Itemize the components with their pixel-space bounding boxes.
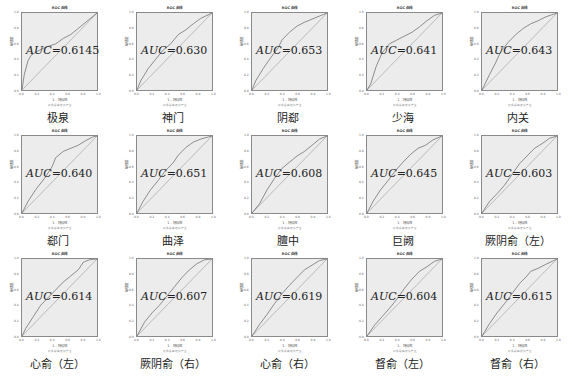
y-tick-label: 0.2 xyxy=(474,319,479,323)
auc-value: 0.630 xyxy=(176,44,208,57)
chart-note: 对角段由结值产生 xyxy=(251,349,328,353)
y-tick-label: 1.0 xyxy=(129,133,134,137)
chart-title: ROC 曲线 xyxy=(251,5,328,10)
y-tick-label: 0.8 xyxy=(244,149,249,153)
y-axis-ticks: 0.00.20.40.60.81.0 xyxy=(244,256,251,338)
x-tick-label: 0.4 xyxy=(280,92,285,96)
y-tick-label: 0.8 xyxy=(14,272,19,276)
y-axis-ticks: 0.00.20.40.60.81.0 xyxy=(129,10,136,92)
y-tick-label: 1.0 xyxy=(474,256,479,260)
y-tick-label: 0.6 xyxy=(359,288,364,292)
roc-panel: ROC 曲线 敏感度 0.00.20.40.60.81.0 0.00.20.40… xyxy=(0,246,115,369)
auc-eq: = xyxy=(167,167,176,180)
x-tick-label: 0.6 xyxy=(65,92,70,96)
y-tick-label: 0.8 xyxy=(359,26,364,30)
y-tick-label: 0.2 xyxy=(14,196,19,200)
y-tick-label: 1.0 xyxy=(14,256,19,260)
y-axis-ticks: 0.00.20.40.60.81.0 xyxy=(129,133,136,215)
y-tick-label: 0.4 xyxy=(14,303,19,307)
x-tick-label: 0.6 xyxy=(295,92,300,96)
y-tick-label: 0.2 xyxy=(244,196,249,200)
x-tick-label: 0.0 xyxy=(249,92,254,96)
x-tick-label: 0.2 xyxy=(149,338,154,342)
x-tick-label: 0.4 xyxy=(50,215,55,219)
x-tick-label: 0.8 xyxy=(81,338,86,342)
y-tick-label: 0.6 xyxy=(474,165,479,169)
x-tick-label: 0.2 xyxy=(379,338,384,342)
chart-title: ROC 曲线 xyxy=(481,128,558,133)
x-tick-label: 0.0 xyxy=(479,215,484,219)
auc-eq: = xyxy=(397,290,406,303)
x-tick-label: 0.0 xyxy=(249,338,254,342)
x-tick-label: 0.8 xyxy=(81,92,86,96)
roc-panel: ROC 曲线 敏感度 0.00.20.40.60.81.0 0.00.20.40… xyxy=(115,246,230,369)
auc-annotation: AUC=0.607 xyxy=(141,290,221,303)
chart-title: ROC 曲线 xyxy=(366,128,443,133)
y-axis-ticks: 0.00.20.40.60.81.0 xyxy=(474,10,481,92)
auc-prefix: AUC xyxy=(371,290,397,303)
x-tick-label: 0.4 xyxy=(395,338,400,342)
roc-panel: ROC 曲线 敏感度 0.00.20.40.60.81.0 0.00.20.40… xyxy=(230,123,345,246)
x-tick-label: 0.2 xyxy=(34,338,39,342)
auc-prefix: AUC xyxy=(26,290,52,303)
y-tick-label: 0.8 xyxy=(14,26,19,30)
x-tick-label: 0.8 xyxy=(541,338,546,342)
x-tick-label: 0.8 xyxy=(311,92,316,96)
x-tick-label: 0.6 xyxy=(525,338,530,342)
y-tick-label: 0.2 xyxy=(359,196,364,200)
x-tick-label: 0.6 xyxy=(180,215,185,219)
auc-eq: = xyxy=(512,290,521,303)
y-tick-label: 0.2 xyxy=(14,73,19,77)
x-tick-label: 0.2 xyxy=(494,215,499,219)
auc-value: 0.615 xyxy=(521,290,553,303)
x-tick-label: 1.0 xyxy=(326,338,331,342)
chart-title: ROC 曲线 xyxy=(251,251,328,256)
x-tick-label: 0.6 xyxy=(525,92,530,96)
y-tick-label: 0.4 xyxy=(244,57,249,61)
auc-eq: = xyxy=(52,44,61,57)
roc-panel: ROC 曲线 敏感度 0.00.20.40.60.81.0 0.00.20.40… xyxy=(460,0,575,123)
x-tick-label: 0.2 xyxy=(34,92,39,96)
y-tick-label: 0.6 xyxy=(14,165,19,169)
x-tick-label: 0.6 xyxy=(410,338,415,342)
auc-prefix: AUC xyxy=(256,290,282,303)
y-tick-label: 0.6 xyxy=(129,288,134,292)
x-tick-label: 0.2 xyxy=(379,92,384,96)
x-tick-label: 1.0 xyxy=(556,92,561,96)
x-tick-label: 0.6 xyxy=(65,338,70,342)
acupoint-caption: 督俞（右） xyxy=(460,355,575,371)
x-tick-label: 0.4 xyxy=(510,92,515,96)
x-tick-label: 0.0 xyxy=(19,215,24,219)
auc-eq: = xyxy=(167,290,176,303)
auc-value: 0.604 xyxy=(406,290,438,303)
x-axis-label: 1 - 特异性 xyxy=(366,220,443,225)
x-tick-label: 0.8 xyxy=(541,92,546,96)
y-tick-label: 1.0 xyxy=(474,10,479,14)
chart-title: ROC 曲线 xyxy=(251,128,328,133)
y-tick-label: 0.4 xyxy=(359,57,364,61)
y-tick-label: 0.2 xyxy=(14,319,19,323)
auc-annotation: AUC=0.641 xyxy=(371,44,451,57)
y-axis-ticks: 0.00.20.40.60.81.0 xyxy=(359,256,366,338)
x-tick-label: 1.0 xyxy=(441,92,446,96)
y-tick-label: 0.6 xyxy=(129,165,134,169)
x-tick-label: 0.4 xyxy=(280,338,285,342)
x-tick-label: 0.0 xyxy=(19,92,24,96)
auc-annotation: AUC=0.615 xyxy=(486,290,566,303)
y-tick-label: 0.8 xyxy=(474,272,479,276)
acupoint-caption: 心俞（右） xyxy=(230,355,345,371)
y-tick-label: 0.4 xyxy=(474,180,479,184)
x-axis-label: 1 - 特异性 xyxy=(251,97,328,102)
auc-prefix: AUC xyxy=(486,44,512,57)
x-tick-label: 0.2 xyxy=(264,338,269,342)
y-tick-label: 0.4 xyxy=(474,303,479,307)
x-tick-label: 1.0 xyxy=(96,215,101,219)
auc-annotation: AUC=0.643 xyxy=(486,44,566,57)
x-tick-label: 0.8 xyxy=(311,338,316,342)
x-axis-label: 1 - 特异性 xyxy=(481,343,558,348)
x-tick-label: 0.8 xyxy=(426,338,431,342)
y-tick-label: 0.6 xyxy=(359,42,364,46)
roc-panel: ROC 曲线 敏感度 0.00.20.40.60.81.0 0.00.20.40… xyxy=(230,246,345,369)
auc-prefix: AUC xyxy=(26,44,52,57)
auc-eq: = xyxy=(282,167,291,180)
